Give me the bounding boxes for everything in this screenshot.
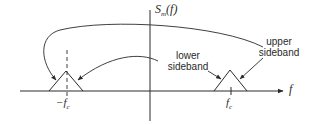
- lower-sideband-line-1: lower: [166, 50, 210, 61]
- neg-carrier-label-main: −f: [56, 96, 66, 108]
- spectrum-diagram: [0, 0, 313, 125]
- upper-sideband-line-2: sideband: [256, 47, 302, 58]
- pos-carrier-label: fc: [226, 97, 232, 110]
- upper-sideband-label: upper sideband: [256, 36, 302, 58]
- upper-sideband-line-1: upper: [256, 36, 302, 47]
- left-spectrum-triangle: [49, 71, 83, 91]
- lower-sideband-label: lower sideband: [166, 50, 210, 72]
- lower-sideband-line-2: sideband: [166, 61, 210, 72]
- y-axis-label: Sm(f): [155, 4, 177, 17]
- y-axis-label-sub: m: [161, 10, 166, 18]
- neg-carrier-label: −fc: [56, 97, 70, 110]
- upper-sideband-pointer: [240, 58, 263, 79]
- lower-sideband-pointer: [208, 71, 221, 79]
- neg-carrier-label-sub: c: [66, 103, 69, 111]
- upper-sideband-mapping-arrow: [44, 24, 263, 80]
- pos-carrier-label-sub: c: [229, 103, 232, 111]
- lower-sideband-mapping-arrow: [78, 56, 158, 80]
- y-axis-label-arg: (f): [166, 2, 177, 16]
- x-axis-label: f: [289, 84, 292, 95]
